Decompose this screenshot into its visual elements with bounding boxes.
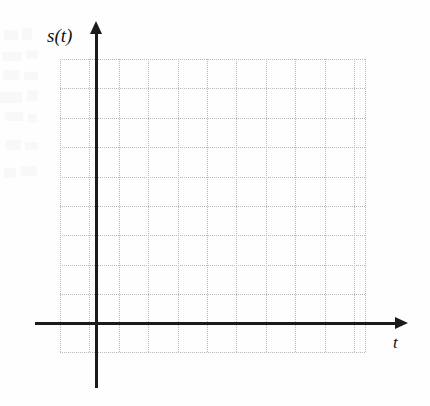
grid-line-vertical bbox=[207, 59, 208, 352]
grid-line-vertical bbox=[60, 59, 61, 352]
grid-line-horizontal bbox=[60, 59, 365, 60]
dotted-grid bbox=[0, 0, 430, 406]
grid-line-vertical bbox=[354, 59, 355, 352]
grid-line-vertical bbox=[295, 59, 296, 352]
grid-line-vertical bbox=[236, 59, 237, 352]
grid-line-horizontal bbox=[60, 235, 365, 236]
grid-line-horizontal bbox=[60, 147, 365, 148]
grid-line-vertical bbox=[365, 59, 366, 352]
x-axis-arrowhead-icon bbox=[395, 317, 408, 329]
grid-line-horizontal bbox=[60, 206, 365, 207]
grid-line-vertical bbox=[266, 59, 267, 352]
grid-line-vertical bbox=[89, 59, 90, 352]
grid-line-horizontal bbox=[60, 88, 365, 89]
coordinate-grid-figure: s(t) t bbox=[0, 0, 430, 406]
grid-line-horizontal bbox=[60, 294, 365, 295]
y-axis-arrowhead-icon bbox=[90, 21, 102, 34]
x-axis-label: t bbox=[393, 334, 398, 351]
grid-line-vertical bbox=[148, 59, 149, 352]
grid-line-vertical bbox=[325, 59, 326, 352]
grid-line-horizontal bbox=[60, 118, 365, 119]
grid-line-vertical bbox=[119, 59, 120, 352]
grid-line-horizontal bbox=[60, 352, 365, 353]
grid-line-horizontal bbox=[60, 177, 365, 178]
x-axis-line bbox=[35, 322, 397, 325]
y-axis-label: s(t) bbox=[47, 26, 72, 45]
y-axis-line bbox=[95, 32, 98, 388]
grid-line-horizontal bbox=[60, 265, 365, 266]
grid-line-vertical bbox=[178, 59, 179, 352]
